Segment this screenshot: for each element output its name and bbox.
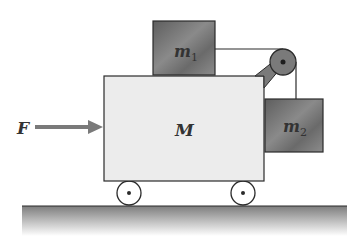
wheel-left [117,181,141,205]
force-label: F [16,118,31,138]
force-arrow [35,120,103,134]
cart-label: M [174,120,195,140]
diagram-canvas: F M m1 m2 [0,0,364,236]
pulley [270,49,296,75]
ground [22,206,347,236]
wheel-right [231,181,255,205]
